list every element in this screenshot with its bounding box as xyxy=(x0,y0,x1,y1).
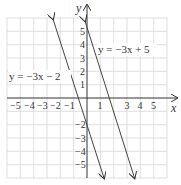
equation-label-2: y = −3x − 2 xyxy=(9,70,61,82)
svg-text:−1: −1 xyxy=(64,100,75,111)
svg-text:2: 2 xyxy=(80,66,85,77)
svg-text:1: 1 xyxy=(80,79,85,90)
svg-text:−5: −5 xyxy=(75,159,86,170)
svg-text:−3: −3 xyxy=(37,100,48,111)
coordinate-plane: x y −5 −4 −3 −2 −1 1 3 4 5 5 4 3 2 1 −2 … xyxy=(0,0,181,185)
y-axis-label: y xyxy=(75,1,82,15)
svg-text:3: 3 xyxy=(80,53,85,64)
svg-text:1: 1 xyxy=(98,100,103,111)
svg-text:4: 4 xyxy=(80,39,85,50)
equation-label-1: y = −3x + 5 xyxy=(98,43,150,55)
x-tick-labels: −5 −4 −3 −2 −1 1 3 4 5 xyxy=(10,100,156,111)
svg-text:−4: −4 xyxy=(75,146,86,157)
svg-text:−4: −4 xyxy=(24,100,35,111)
svg-text:−2: −2 xyxy=(75,119,86,130)
svg-text:5: 5 xyxy=(151,100,156,111)
svg-text:−5: −5 xyxy=(10,100,21,111)
svg-text:3: 3 xyxy=(125,100,130,111)
svg-text:−3: −3 xyxy=(75,133,86,144)
svg-text:5: 5 xyxy=(80,26,85,37)
svg-text:−2: −2 xyxy=(50,100,61,111)
svg-text:4: 4 xyxy=(138,100,143,111)
x-axis-label: x xyxy=(170,101,177,115)
